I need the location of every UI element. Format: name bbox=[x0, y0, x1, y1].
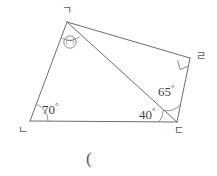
vertex-label-bottom-right: ㄷ bbox=[174, 125, 184, 136]
diagonal-top-to-bottom-right bbox=[67, 22, 177, 122]
unknown-angle-marker: ㈠ bbox=[64, 38, 76, 46]
geometry-drawing bbox=[0, 0, 217, 176]
degree-symbol-70: ° bbox=[55, 101, 59, 111]
segment-right-to-top bbox=[67, 22, 190, 58]
degree-symbol-65: ° bbox=[171, 83, 175, 93]
angle-arc-bottom-right-lower bbox=[159, 110, 163, 122]
degree-symbol-40: ° bbox=[152, 106, 156, 116]
vertex-label-top: ㄱ bbox=[62, 5, 72, 16]
angle-label-70: 70° bbox=[42, 102, 59, 116]
geometry-figure: ㄱ ㄴ ㄷ ㄹ ㈠ 70° 40° 65° ( bbox=[0, 0, 217, 176]
angle-value-40: 40 bbox=[139, 107, 152, 122]
angle-arc-bottom-right-upper bbox=[163, 104, 180, 110]
angle-value-65: 65 bbox=[158, 84, 171, 99]
angle-value-70: 70 bbox=[42, 102, 55, 117]
segment-bottom-right-to-right bbox=[177, 58, 190, 122]
figure-caption: ( bbox=[86, 150, 92, 167]
angle-label-65: 65° bbox=[158, 84, 175, 98]
angle-label-40: 40° bbox=[139, 107, 156, 121]
vertex-label-right: ㄹ bbox=[196, 51, 206, 62]
vertex-label-bottom-left: ㄴ bbox=[18, 125, 28, 136]
right-angle-mark bbox=[178, 60, 190, 69]
